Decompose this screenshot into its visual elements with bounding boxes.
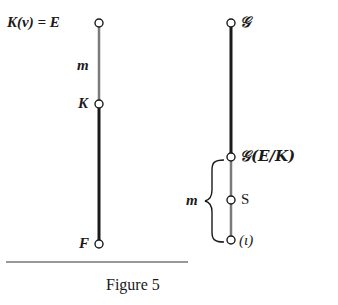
node-s [227,196,235,204]
label-e: K(v) = E [7,15,60,30]
label-f: F [79,236,89,251]
node-g [227,19,235,27]
label-g: 𝒢 [240,15,251,30]
label-iota: (ι) [239,233,253,248]
label-gek: 𝒢(E/K) [240,149,295,164]
node-k [95,100,103,108]
node-iota [227,236,235,244]
figure-caption: Figure 5 [106,277,160,293]
label-s: S [241,192,249,207]
label-m-left: m [77,58,89,73]
label-k: K [78,96,88,111]
node-f [95,240,103,248]
label-m-brace: m [186,193,198,208]
node-gek [227,153,235,161]
node-e [95,19,103,27]
brace-icon [205,160,224,242]
